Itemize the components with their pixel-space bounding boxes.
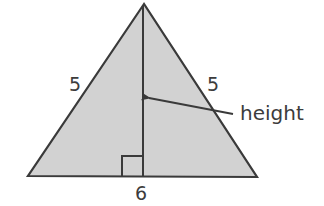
height-label: height [240, 101, 304, 125]
left-side-label: 5 [69, 73, 81, 95]
right-side-label: 5 [207, 73, 219, 95]
triangle-diagram: 5 5 6 height [0, 0, 324, 206]
base-label: 6 [135, 182, 147, 204]
